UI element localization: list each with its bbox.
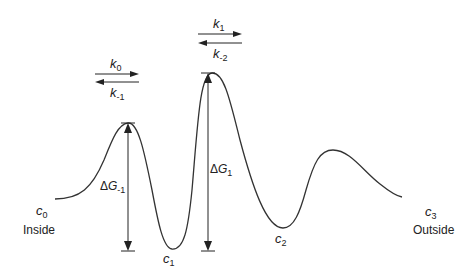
rate-label-k-minus1: k-1	[110, 86, 125, 102]
location-label-inside: Inside	[23, 224, 55, 236]
energy-diagram-canvas	[0, 0, 476, 277]
energy-profile-curve	[55, 73, 402, 249]
barrier-label-dg-minus1: ΔG-1	[100, 180, 125, 195]
rate-arrows-step1	[95, 71, 139, 85]
rate-label-k1: k1	[213, 17, 225, 33]
barrier-label-dg-1: ΔG1	[210, 163, 232, 178]
location-label-outside: Outside	[413, 224, 454, 236]
rate-arrows-step2	[198, 31, 242, 46]
rate-label-k0: k0	[110, 57, 122, 73]
state-label-c0: c0	[36, 204, 48, 220]
rate-label-k-minus2: k-2	[213, 47, 228, 63]
state-label-c2: c2	[275, 232, 287, 248]
state-label-c1: c1	[163, 252, 175, 268]
state-label-c3: c3	[425, 205, 437, 221]
